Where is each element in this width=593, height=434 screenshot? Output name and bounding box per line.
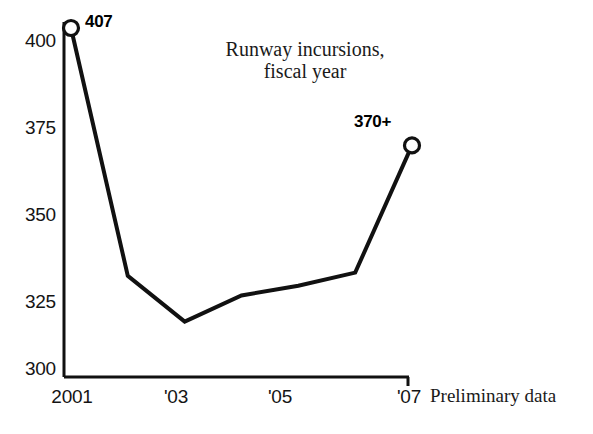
chart-title: Runway incursions, fiscal year: [195, 38, 415, 83]
value-label-2001: 407: [85, 12, 112, 32]
x-tick-label-05: '05: [250, 386, 310, 408]
x-tick-label-03: '03: [146, 386, 206, 408]
chart-title-line-2: fiscal year: [195, 60, 415, 82]
y-tick-label-325: 325: [4, 291, 56, 313]
y-tick-label-300: 300: [4, 358, 56, 380]
value-label-2007: 370+: [354, 112, 391, 132]
data-point-marker-2007: [405, 138, 420, 153]
y-tick-label-375: 375: [4, 117, 56, 139]
chart-title-line-1: Runway incursions,: [195, 38, 415, 60]
y-tick-label-400: 400: [4, 30, 56, 52]
x-tick-label-2001: 2001: [42, 386, 102, 408]
runway-incursions-chart: 400 375 350 325 300 2001 '03 '05 '07 407…: [0, 0, 593, 434]
data-point-marker-2001: [64, 21, 79, 36]
y-tick-label-350: 350: [4, 204, 56, 226]
footnote-preliminary-data: Preliminary data: [430, 385, 556, 407]
